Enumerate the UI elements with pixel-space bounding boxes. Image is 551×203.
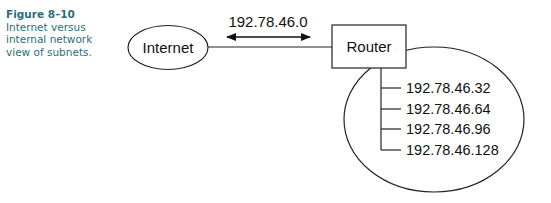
subnet-label: 192.78.46.128 xyxy=(406,142,499,158)
subnet-label: 192.78.46.32 xyxy=(406,80,491,96)
subnet-label: 192.78.46.64 xyxy=(406,101,491,117)
internal-network-ellipse xyxy=(344,47,524,192)
router-label: Router xyxy=(346,38,391,55)
network-address-label: 192.78.46.0 xyxy=(228,13,307,30)
internet-label: Internet xyxy=(143,39,195,56)
network-diagram: Internet 192.78.46.0 Router 192.78.46.32… xyxy=(0,0,551,203)
subnet-label: 192.78.46.96 xyxy=(406,121,491,137)
